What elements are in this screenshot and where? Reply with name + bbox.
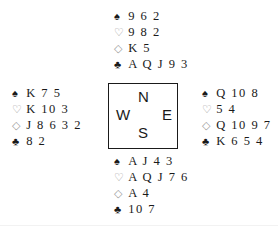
bottom-divider: [0, 225, 278, 226]
west-hand: ♠ K 7 5 ♡ K 10 3 ◇ J 8 6 3 2 ♣ 8 2: [12, 85, 82, 149]
south-spades: ♠ A J 4 3: [114, 153, 189, 169]
heart-icon: ♡: [202, 101, 213, 117]
east-spades: ♠ Q 10 8: [202, 85, 272, 101]
spade-icon: ♠: [202, 85, 213, 101]
heart-icon: ♡: [114, 24, 125, 40]
club-icon: ♣: [114, 201, 125, 217]
compass-east-label: E: [162, 106, 172, 123]
diamond-icon: ◇: [12, 117, 23, 133]
diamond-icon: ◇: [202, 117, 213, 133]
east-hand: ♠ Q 10 8 ♡ 5 4 ◇ Q 10 9 7 ♣ K 6 5 4: [202, 85, 272, 149]
spade-icon: ♠: [12, 85, 23, 101]
south-hand: ♠ A J 4 3 ♡ A Q J 7 6 ◇ A 4 ♣ 10 7: [114, 153, 189, 217]
diamond-icon: ◇: [114, 185, 125, 201]
spade-icon: ♠: [114, 8, 125, 24]
east-diamonds: ◇ Q 10 9 7: [202, 117, 272, 133]
east-clubs: ♣ K 6 5 4: [202, 133, 272, 149]
south-diamonds: ◇ A 4: [114, 185, 189, 201]
west-hearts: ♡ K 10 3: [12, 101, 82, 117]
heart-icon: ♡: [114, 169, 125, 185]
east-hearts: ♡ 5 4: [202, 101, 272, 117]
club-icon: ♣: [12, 133, 23, 149]
west-clubs: ♣ 8 2: [12, 133, 82, 149]
south-hearts: ♡ A Q J 7 6: [114, 169, 189, 185]
club-icon: ♣: [202, 133, 213, 149]
south-clubs: ♣ 10 7: [114, 201, 189, 217]
compass-south-label: S: [138, 124, 148, 141]
north-clubs: ♣ A Q J 9 3: [114, 56, 189, 72]
compass-box: N W E S: [108, 83, 178, 149]
spade-icon: ♠: [114, 153, 125, 169]
compass-north-label: N: [138, 88, 149, 105]
diamond-icon: ◇: [114, 40, 125, 56]
north-hand: ♠ 9 6 2 ♡ 9 8 2 ◇ K 5 ♣ A Q J 9 3: [114, 8, 189, 72]
heart-icon: ♡: [12, 101, 23, 117]
club-icon: ♣: [114, 56, 125, 72]
compass-west-label: W: [116, 106, 130, 123]
west-spades: ♠ K 7 5: [12, 85, 82, 101]
west-diamonds: ◇ J 8 6 3 2: [12, 117, 82, 133]
north-hearts: ♡ 9 8 2: [114, 24, 189, 40]
north-diamonds: ◇ K 5: [114, 40, 189, 56]
north-spades: ♠ 9 6 2: [114, 8, 189, 24]
